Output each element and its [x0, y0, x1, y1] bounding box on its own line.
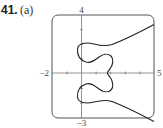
plot-frame — [52, 15, 154, 118]
y-min-label: −3 — [77, 118, 87, 128]
x-max-label: 5 — [157, 68, 162, 78]
y-max-label: 4 — [79, 5, 84, 15]
graph: 4 −3 −2 5 — [0, 0, 163, 127]
x-min-label: −2 — [39, 68, 49, 78]
